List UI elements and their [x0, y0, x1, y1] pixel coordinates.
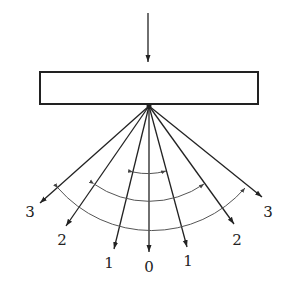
label-order-2-left: 2 — [57, 231, 67, 249]
label-order-0: 0 — [144, 258, 154, 276]
arc-order-3 — [58, 188, 245, 231]
label-order-3-right: 3 — [263, 203, 273, 221]
ray-order-1-right — [149, 106, 187, 247]
label-order-2-right: 2 — [232, 231, 242, 249]
grating-plate — [40, 72, 258, 104]
label-order-1-left: 1 — [104, 254, 114, 272]
label-order-1-right: 1 — [183, 252, 193, 270]
ray-order-1-left — [114, 106, 149, 249]
ray-order-3-left — [40, 106, 149, 203]
ray-order-2-left — [66, 106, 149, 226]
label-order-3-left: 3 — [25, 203, 35, 221]
diffraction-diagram: 3 2 1 0 1 2 3 — [0, 0, 293, 285]
